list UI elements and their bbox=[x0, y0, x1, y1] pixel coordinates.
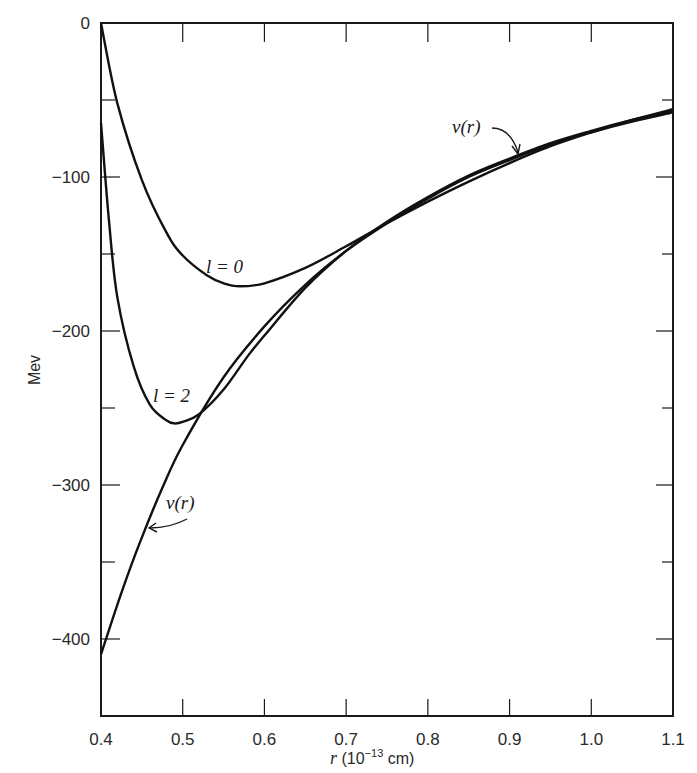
x-tick-label: 0.7 bbox=[334, 730, 358, 749]
label-v-upper: v(r) bbox=[452, 116, 480, 138]
curve-v-r bbox=[101, 112, 673, 654]
x-tick-label: 0.5 bbox=[171, 730, 195, 749]
curves bbox=[101, 23, 673, 654]
x-tick-label: 1.0 bbox=[579, 730, 603, 749]
x-tick-label: 0.9 bbox=[498, 730, 522, 749]
x-tick-label: 1.1 bbox=[661, 730, 685, 749]
label-l2: l = 2 bbox=[153, 385, 191, 406]
x-tick-label: 0.8 bbox=[416, 730, 440, 749]
label-v-lower: v(r) bbox=[166, 492, 194, 514]
x-axis-tick-labels: 0.40.50.60.70.80.91.01.1 bbox=[89, 730, 685, 749]
y-axis-ticks bbox=[101, 100, 673, 639]
y-tick-label: −400 bbox=[52, 630, 90, 649]
x-axis-label-main: (10 bbox=[341, 750, 364, 767]
y-tick-label: −100 bbox=[52, 168, 90, 187]
y-tick-label: 0 bbox=[81, 14, 90, 33]
label-l0: l = 0 bbox=[206, 256, 244, 277]
curve-l0 bbox=[101, 23, 673, 286]
x-axis-label: r (10−13 cm) bbox=[330, 747, 414, 768]
x-tick-label: 0.6 bbox=[253, 730, 277, 749]
y-tick-label: −200 bbox=[52, 322, 90, 341]
chart: 0.40.50.60.70.80.91.01.1 0−100−200−300−4… bbox=[0, 0, 697, 773]
curve-l2 bbox=[101, 111, 673, 424]
y-axis-label: Mev bbox=[26, 355, 43, 385]
y-axis-tick-labels: 0−100−200−300−400 bbox=[52, 14, 90, 649]
x-tick-label: 0.4 bbox=[89, 730, 113, 749]
x-axis-label-exponent: −13 bbox=[365, 747, 384, 759]
y-tick-label: −300 bbox=[52, 476, 90, 495]
x-axis-ticks bbox=[183, 23, 592, 716]
plot-frame bbox=[101, 23, 673, 716]
x-axis-label-unit: cm) bbox=[383, 750, 414, 767]
